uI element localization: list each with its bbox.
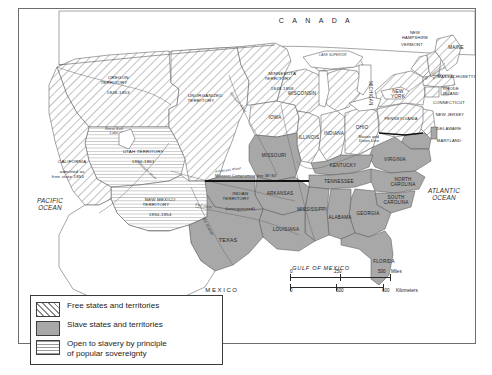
scale-row-kilometers: 0 300 600 Kilometers xyxy=(290,285,398,298)
region-north-carolina xyxy=(371,169,425,193)
legend-item-popular-sovereignty: Open to slavery by principle of popular … xyxy=(36,339,216,359)
legend-item-free: Free states and territories xyxy=(36,301,216,317)
region-pennsylvania xyxy=(377,103,425,137)
legend-item-slave: Slave states and territories xyxy=(36,320,216,336)
region-connecticut xyxy=(425,87,439,97)
scale-unit-miles: Miles xyxy=(391,269,402,274)
region-rhode-island xyxy=(441,87,449,95)
scale-tick-km-1: 300 xyxy=(336,288,344,293)
region-delaware xyxy=(431,127,437,139)
scale-mark-km-1 xyxy=(336,284,337,291)
map-legend: Free states and territories Slave states… xyxy=(30,295,223,365)
region-indiana xyxy=(319,111,345,161)
legend-label-popular-sovereignty: Open to slavery by principle of popular … xyxy=(67,339,167,359)
historical-map: C A N A D A MEXICO PACIFIC OCEAN ATLANTI… xyxy=(0,0,492,375)
legend-swatch-popular-sovereignty xyxy=(36,340,60,355)
region-utah-territory xyxy=(85,127,185,187)
legend-label-slave: Slave states and territories xyxy=(67,320,163,330)
region-illinois xyxy=(297,111,321,163)
map-neatline-frame: C A N A D A MEXICO PACIFIC OCEAN ATLANTI… xyxy=(18,8,476,344)
legend-label-free: Free states and territories xyxy=(67,301,159,311)
region-iowa xyxy=(249,101,299,137)
scale-mark-miles-1 xyxy=(340,274,341,281)
region-mississippi xyxy=(305,187,329,241)
scale-row-miles: 0 250 500 Miles xyxy=(290,272,398,285)
legend-swatch-free-hatch xyxy=(36,302,60,317)
water-lake-superior xyxy=(303,51,363,69)
map-scale-bar: 0 250 500 Miles 0 300 600 Kilometers xyxy=(290,272,398,298)
water-lake-huron xyxy=(357,65,371,95)
scale-unit-kilometers: Kilometers xyxy=(396,288,418,293)
scale-tick-miles-2: 500 xyxy=(378,269,386,274)
region-missouri xyxy=(249,133,301,181)
scale-mark-km-2 xyxy=(383,284,384,291)
legend-swatch-slave-solid xyxy=(36,321,60,336)
scale-mark-miles-0 xyxy=(290,274,291,281)
scale-mark-miles-2 xyxy=(390,274,391,281)
scale-mark-km-0 xyxy=(290,284,291,291)
